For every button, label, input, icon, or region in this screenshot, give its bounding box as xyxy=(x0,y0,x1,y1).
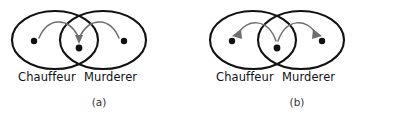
diagram-panel-a: Chauffeur Murderer (a) xyxy=(0,0,198,116)
chauffeur-label: Chauffeur xyxy=(18,70,76,84)
right-outer-dot xyxy=(319,38,325,44)
chauffeur-ellipse xyxy=(12,11,98,69)
murderer-ellipse xyxy=(258,11,344,69)
arrow-right-to-center xyxy=(80,22,119,38)
left-outer-dot xyxy=(31,38,37,44)
murderer-label: Murderer xyxy=(282,70,335,84)
left-outer-dot xyxy=(229,38,235,44)
panel-a-caption: (a) xyxy=(0,96,198,108)
arrow-left-to-center xyxy=(39,22,78,38)
diagram-panel-b: Chauffeur Murderer (b) xyxy=(198,0,396,116)
arrowhead-right-icon xyxy=(312,29,322,39)
arrow-center-to-left xyxy=(238,23,276,41)
center-dot xyxy=(76,45,83,52)
murderer-ellipse xyxy=(60,11,146,69)
center-dot xyxy=(274,45,281,52)
arrowhead-center-icon xyxy=(75,35,83,44)
figure-container: Chauffeur Murderer (a) Chauffeur Murdere… xyxy=(0,0,396,116)
chauffeur-ellipse xyxy=(210,11,296,69)
chauffeur-label: Chauffeur xyxy=(216,70,274,84)
arrow-center-to-right xyxy=(278,23,316,41)
arrowhead-left-icon xyxy=(232,29,242,39)
murderer-label: Murderer xyxy=(84,70,137,84)
panel-b-caption: (b) xyxy=(198,96,396,108)
right-outer-dot xyxy=(121,38,127,44)
